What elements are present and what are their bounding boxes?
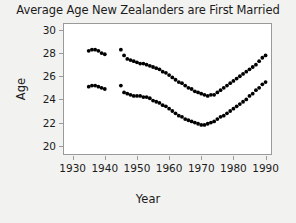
x-tick-label: 1970 — [188, 162, 215, 174]
x-tick-mark — [266, 156, 267, 160]
y-tick-mark — [59, 123, 63, 124]
y-tick-mark — [59, 53, 63, 54]
y-tick-mark — [59, 99, 63, 100]
x-tick-mark — [233, 156, 234, 160]
x-tick-label: 1960 — [156, 162, 183, 174]
y-tick-mark — [59, 30, 63, 31]
plot-area — [63, 23, 272, 155]
chart-title: Average Age New Zealanders are First Mar… — [0, 3, 296, 17]
y-axis-title: Age — [14, 59, 28, 119]
x-tick-mark — [201, 156, 202, 160]
y-tick-mark — [59, 76, 63, 77]
x-tick-mark — [73, 156, 74, 160]
chart-figure: Average Age New Zealanders are First Mar… — [0, 0, 296, 223]
y-tick-label: 28 — [20, 47, 56, 59]
x-tick-label: 1990 — [252, 162, 279, 174]
y-tick-label: 30 — [20, 24, 56, 36]
y-tick-label: 20 — [20, 140, 56, 152]
x-tick-label: 1950 — [124, 162, 151, 174]
x-tick-label: 1980 — [220, 162, 247, 174]
x-tick-mark — [169, 156, 170, 160]
x-tick-label: 1930 — [59, 162, 86, 174]
y-tick-mark — [59, 146, 63, 147]
x-tick-mark — [137, 156, 138, 160]
x-axis-title: Year — [0, 192, 296, 206]
x-tick-mark — [105, 156, 106, 160]
x-tick-label: 1940 — [91, 162, 118, 174]
